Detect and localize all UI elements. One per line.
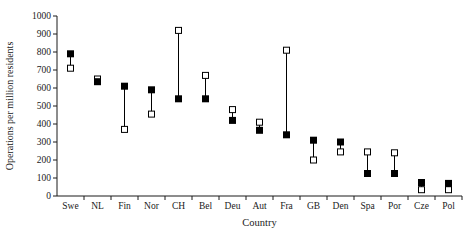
y-tick-label: 900 <box>37 29 52 39</box>
open-square-marker <box>392 150 398 156</box>
open-square-marker <box>365 149 371 155</box>
y-tick-label: 400 <box>37 119 52 129</box>
open-square-marker <box>446 187 452 193</box>
x-category-label: Den <box>333 201 349 211</box>
filled-square-marker <box>229 117 236 124</box>
open-square-marker <box>311 157 317 163</box>
filled-square-marker <box>94 78 101 85</box>
open-square-marker <box>203 72 209 78</box>
filled-square-marker <box>283 131 290 138</box>
x-category-label: NL <box>91 201 104 211</box>
open-square-marker <box>149 111 155 117</box>
filled-square-marker <box>445 180 452 187</box>
filled-square-marker <box>202 95 209 102</box>
y-tick-label: 300 <box>37 137 52 147</box>
y-tick-label: 200 <box>37 155 52 165</box>
y-tick-label: 100 <box>37 173 52 183</box>
open-square-marker <box>176 27 182 33</box>
x-category-label: Por <box>388 201 402 211</box>
filled-square-marker <box>175 95 182 102</box>
filled-square-marker <box>391 170 398 177</box>
open-square-marker <box>68 65 74 71</box>
x-category-label: GB <box>307 201 320 211</box>
y-tick-label: 700 <box>37 65 52 75</box>
filled-square-marker <box>310 137 317 144</box>
filled-square-marker <box>121 83 128 90</box>
open-square-marker <box>338 149 344 155</box>
x-axis-label: Country <box>57 217 462 228</box>
x-category-label: Swe <box>62 201 78 211</box>
x-category-label: Fra <box>280 201 293 211</box>
x-category-label: Deu <box>225 201 241 211</box>
y-tick-label: 0 <box>46 191 51 201</box>
filled-square-marker <box>364 170 371 177</box>
filled-square-marker <box>67 50 74 57</box>
y-tick-label: 1000 <box>32 11 51 21</box>
x-category-label: Bel <box>199 201 213 211</box>
filled-square-marker <box>337 139 344 146</box>
open-square-marker <box>284 47 290 53</box>
x-category-label: Nor <box>144 201 160 211</box>
filled-square-marker <box>148 86 155 93</box>
open-square-marker <box>122 126 128 132</box>
x-category-label: Aut <box>252 201 267 211</box>
filled-square-marker <box>418 179 425 186</box>
x-category-label: Cze <box>414 201 429 211</box>
x-category-label: CH <box>172 201 185 211</box>
y-tick-label: 800 <box>37 47 52 57</box>
open-square-marker <box>257 119 263 125</box>
filled-square-marker <box>256 127 263 134</box>
y-tick-label: 600 <box>37 83 52 93</box>
y-tick-label: 500 <box>37 101 52 111</box>
open-square-marker <box>419 187 425 193</box>
x-category-label: Pol <box>442 201 455 211</box>
open-square-marker <box>230 107 236 113</box>
x-category-label: Spa <box>360 201 375 211</box>
scatter-plot-canvas: 01002003004005006007008009001000SweNLFin… <box>0 0 472 241</box>
chart-figure: Operations per million residents 0100200… <box>0 0 472 241</box>
x-category-label: Fin <box>118 201 131 211</box>
